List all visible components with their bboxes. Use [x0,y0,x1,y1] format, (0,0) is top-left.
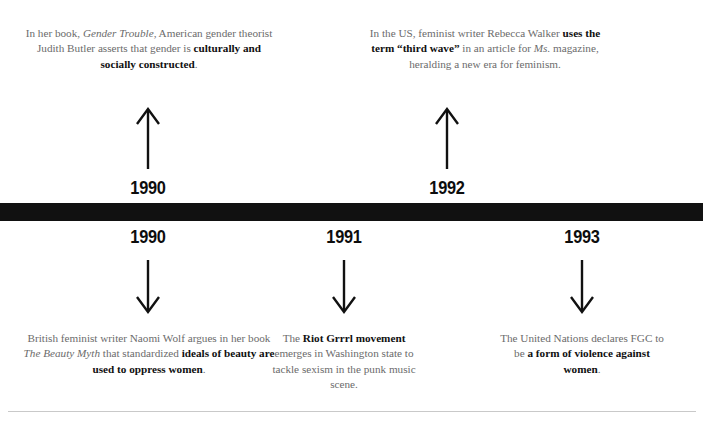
year-label-1993-below: 1993 [530,226,633,248]
timeline-bar [0,203,703,221]
timeline-infographic: In her book, Gender Trouble, American ge… [0,0,703,428]
event-description-1990-butler: In her book, Gender Trouble, American ge… [18,26,280,72]
arrow-down-icon [132,260,164,315]
arrow-down-icon [328,260,360,315]
year-label-1991-below: 1991 [292,226,395,248]
year-label-1992-above: 1992 [395,177,498,199]
event-description-1993-un-fgc: The United Nations declares FGC to be a … [497,331,667,377]
year-label-1990-below: 1990 [96,226,199,248]
event-description-1991-riot-grrrl: The Riot Grrrl movement emerges in Washi… [268,331,420,393]
year-label-1990-above: 1990 [96,177,199,199]
footer-divider [8,411,696,412]
arrow-up-icon [431,105,463,170]
event-description-1990-wolf: British feminist writer Naomi Wolf argue… [18,331,280,377]
event-description-1992-walker: In the US, feminist writer Rebecca Walke… [360,26,610,72]
arrow-down-icon [566,260,598,315]
arrow-up-icon [132,105,164,170]
